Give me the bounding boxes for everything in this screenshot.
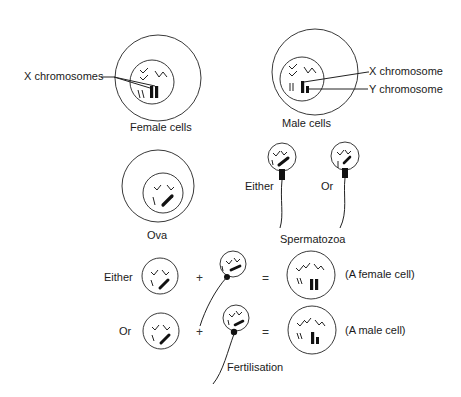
- ova-label: Ova: [147, 229, 168, 241]
- x-chromosome-label: X chromosome: [369, 65, 443, 77]
- male-cells-label: Male cells: [282, 117, 331, 129]
- either-row-label: Either: [104, 271, 133, 283]
- row1-equals: =: [262, 271, 269, 285]
- y-chromosome-label: Y chromosome: [369, 83, 443, 95]
- row2-male-result: [288, 306, 336, 354]
- ovum-cell: [122, 150, 194, 222]
- row2-plus: +: [196, 325, 203, 339]
- female-cell: [101, 35, 201, 121]
- x-chromosomes-label: X chromosomes: [24, 70, 104, 82]
- male-result-label: (A male cell): [345, 324, 406, 336]
- sex-determination-diagram: X chromosomes Female cells X chromosome …: [0, 0, 461, 397]
- spermatozoa-label: Spermatozoa: [280, 233, 346, 245]
- row2-equals: =: [262, 325, 269, 339]
- row1-plus: +: [196, 271, 203, 285]
- female-result-label: (A female cell): [345, 268, 415, 280]
- fertilisation-label: Fertilisation: [227, 361, 283, 373]
- row1-ovum: [142, 258, 178, 294]
- either-sperm-label: Either: [245, 180, 274, 192]
- row1-female-result: [287, 251, 335, 299]
- sperm-y: [331, 142, 359, 228]
- or-sperm-label: Or: [321, 180, 334, 192]
- male-cell: [272, 29, 369, 115]
- row2-ovum: [143, 313, 179, 349]
- female-cells-label: Female cells: [130, 121, 192, 133]
- or-row-label: Or: [119, 325, 132, 337]
